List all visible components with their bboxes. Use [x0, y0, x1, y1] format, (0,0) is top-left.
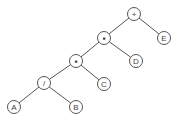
- node-label: •: [102, 34, 105, 44]
- tree-edge: [109, 42, 130, 57]
- tree-node-e: E: [158, 32, 171, 45]
- node-label: +: [132, 10, 137, 19]
- tree-edge: [81, 65, 99, 80]
- node-label: C: [101, 80, 107, 89]
- tree-edge: [19, 87, 39, 103]
- tree-node-mul2: •: [70, 55, 83, 68]
- expression-tree-diagram: +E•D•C/BA: [0, 0, 182, 122]
- tree-edge: [81, 42, 99, 57]
- tree-node-a: A: [8, 101, 21, 114]
- tree-node-plus: +: [128, 8, 141, 21]
- tree-node-mul1: •: [98, 32, 111, 45]
- tree-edge: [49, 87, 71, 103]
- node-label: E: [161, 34, 166, 43]
- node-label: D: [133, 57, 139, 66]
- tree-edge: [49, 65, 70, 80]
- node-label: B: [73, 103, 78, 112]
- tree-node-d: D: [130, 55, 143, 68]
- tree-edge: [109, 18, 129, 34]
- node-label: A: [11, 103, 17, 112]
- tree-node-b: B: [70, 101, 83, 114]
- tree-edge: [139, 18, 159, 34]
- tree-node-div: /: [38, 77, 51, 90]
- node-label: •: [74, 57, 77, 67]
- tree-node-c: C: [98, 78, 111, 91]
